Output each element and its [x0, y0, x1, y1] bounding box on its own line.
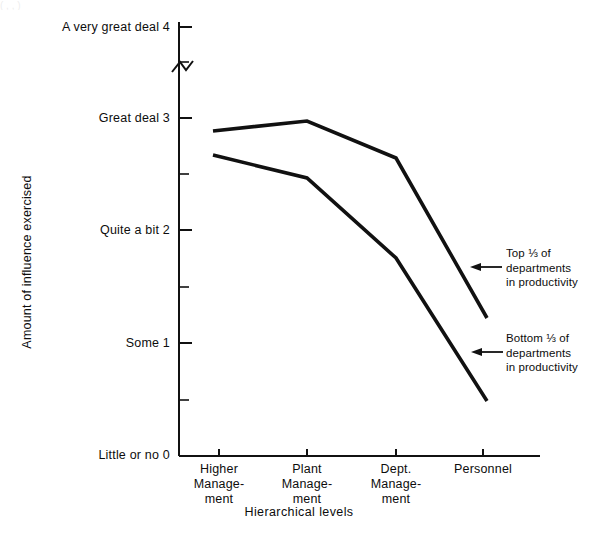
- series-annotation-line: in productivity: [506, 360, 578, 375]
- series-annotation-line: departments: [506, 261, 578, 276]
- series-annotation-top-third: Top ⅓ of departments in productivity: [506, 246, 578, 290]
- y-tick-label-3: Great deal 3: [0, 111, 170, 125]
- x-axis-title: Hierarchical levels: [0, 505, 598, 519]
- series-annotation-line: departments: [506, 346, 578, 361]
- annotation-arrow-bottom-third: [471, 348, 503, 356]
- y-tick-label-0: Little or no 0: [0, 448, 170, 462]
- x-category-label-personnel: Personnel: [428, 462, 538, 477]
- series-line-bottom-third: [213, 155, 487, 401]
- figure-chart-influence-by-hierarchical-level: ( , , ): [0, 0, 598, 537]
- series-annotation-line: in productivity: [506, 275, 578, 290]
- series-annotation-line: Bottom ⅓ of: [506, 331, 578, 346]
- series-line-top-third: [213, 121, 487, 318]
- x-category-line: Personnel: [428, 462, 538, 477]
- series-annotation-bottom-third: Bottom ⅓ of departments in productivity: [506, 331, 578, 375]
- y-tick-label-4: A very great deal 4: [0, 20, 170, 34]
- series-annotation-line: Top ⅓ of: [506, 246, 578, 261]
- y-axis-title: Amount of influence exercised: [20, 157, 34, 367]
- annotation-arrow-top-third: [470, 263, 502, 271]
- x-category-line: Manage-: [341, 477, 451, 492]
